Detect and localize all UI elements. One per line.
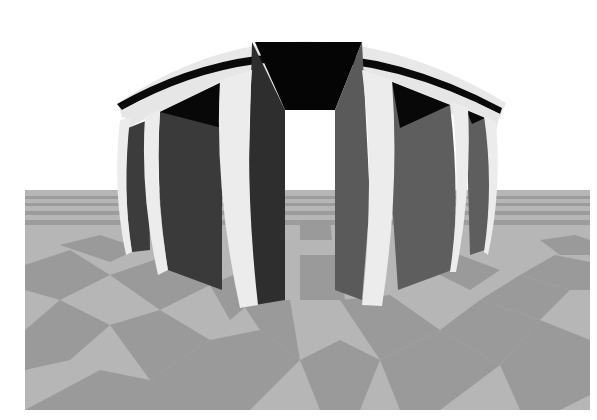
doorway [285, 110, 335, 190]
checkerboard-floor [25, 190, 590, 410]
scene-canvas [0, 0, 597, 420]
render-scene [0, 0, 597, 420]
